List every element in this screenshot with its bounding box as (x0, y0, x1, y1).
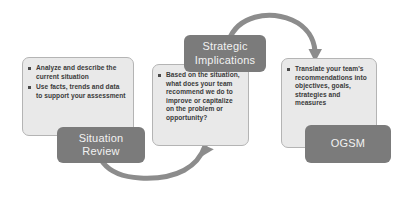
bullet-item: Based on the situation, what does your t… (157, 71, 242, 123)
content-box-strategic-implications: Based on the situation, what does your t… (152, 64, 249, 146)
bullet-item: Translate your team's recommendations in… (286, 65, 370, 108)
bullet-list-ogsm: Translate your team's recommendations in… (286, 65, 370, 108)
bullet-item: Use facts, trends and data to support yo… (27, 83, 127, 100)
stage-label-line-1: Strategic (195, 40, 255, 54)
diagram-canvas: Analyze and describe the current situati… (0, 0, 412, 201)
bullet-list-strategic-implications: Based on the situation, what does your t… (157, 71, 242, 123)
stage-label-line-1: Situation (79, 132, 124, 146)
bullet-list-situation-review: Analyze and describe the current situati… (27, 64, 127, 100)
stage-label-line-1: OGSM (331, 137, 365, 151)
stage-label-line-2: Review (79, 145, 124, 159)
stage-label-situation-review[interactable]: Situation Review (57, 127, 145, 163)
stage-label-line-2: Implications (195, 54, 255, 68)
content-box-situation-review: Analyze and describe the current situati… (22, 57, 134, 136)
stage-label-ogsm[interactable]: OGSM (305, 125, 391, 163)
stage-label-strategic-implications[interactable]: Strategic Implications (184, 35, 266, 72)
bullet-item: Analyze and describe the current situati… (27, 64, 127, 81)
